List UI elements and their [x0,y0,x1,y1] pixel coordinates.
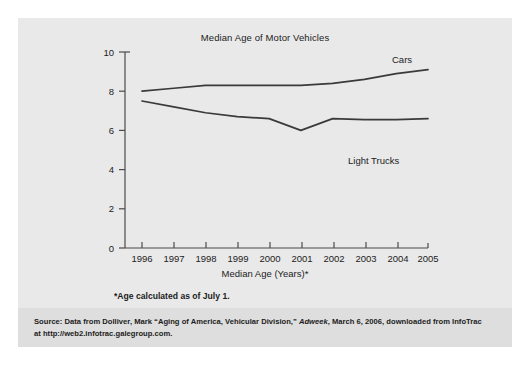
x-tick-2001: 2001 [291,253,312,264]
chart-area: Median Age of Motor Vehicles 10 8 6 4 2 … [18,18,512,290]
x-tick-2003: 2003 [355,253,376,264]
y-tick-2: 2 [109,203,114,214]
x-tick-1999: 1999 [227,253,248,264]
source-publication: Adweek [299,317,328,326]
x-tick-2000: 2000 [259,253,280,264]
series-line-light-trucks [142,101,428,130]
y-tick-8: 8 [109,86,114,97]
x-tick-1997: 1997 [163,253,184,264]
source-line-1: Source: Data from Dolliver, Mark “Aging … [34,317,482,326]
y-axis: 10 8 6 4 2 0 [103,47,130,254]
footnote-row: *Age calculated as of July 1. [18,290,512,308]
x-tick-2005: 2005 [417,253,438,264]
x-axis-title: Median Age (Years)* [18,268,512,279]
series-line-cars [142,70,428,92]
x-tick-2002: 2002 [323,253,344,264]
x-axis: 1996 1997 1998 1999 2000 2001 2002 2003 … [125,242,439,264]
x-tick-1998: 1998 [195,253,216,264]
series-label-cars: Cars [392,54,412,65]
y-tick-6: 6 [109,125,114,136]
footnote-text: *Age calculated as of July 1. [114,291,230,301]
source-line-2: at http://web2.infotrac.galegroup.com. [34,329,172,338]
line-chart-plot: 10 8 6 4 2 0 1996 1997 [18,18,512,290]
source-band: Source: Data from Dolliver, Mark “Aging … [18,308,512,347]
y-tick-0: 0 [109,243,114,254]
x-tick-2004: 2004 [387,253,408,264]
series-label-light-trucks: Light Trucks [348,155,399,166]
x-tick-1996: 1996 [131,253,152,264]
source-text-a: Source: Data from Dolliver, Mark “Aging … [34,317,299,326]
source-text-b: , March 6, 2006, downloaded from InfoTra… [328,317,482,326]
y-tick-10: 10 [103,47,114,58]
figure-panel: Median Age of Motor Vehicles 10 8 6 4 2 … [18,18,512,347]
y-tick-4: 4 [109,164,114,175]
